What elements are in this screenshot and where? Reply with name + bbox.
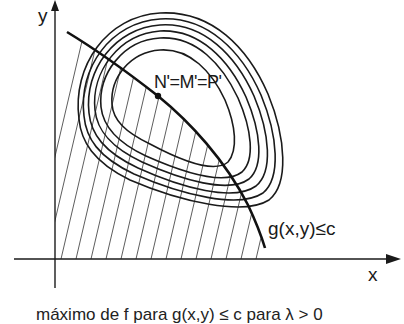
- optimum-point: [155, 93, 161, 99]
- x-axis-label: x: [368, 265, 378, 284]
- optimum-point-label: N'=M'=P': [154, 73, 221, 91]
- x-axis-arrowhead: [386, 254, 401, 264]
- level-curve-3: [95, 31, 259, 185]
- y-axis-label: y: [38, 6, 48, 25]
- level-curves: [78, 13, 283, 207]
- figure-caption: máximo de f para g(x,y) ≤ c para λ > 0: [36, 306, 323, 323]
- y-axis-arrowhead: [51, 0, 59, 11]
- constraint-label: g(x,y)≤c: [268, 219, 335, 238]
